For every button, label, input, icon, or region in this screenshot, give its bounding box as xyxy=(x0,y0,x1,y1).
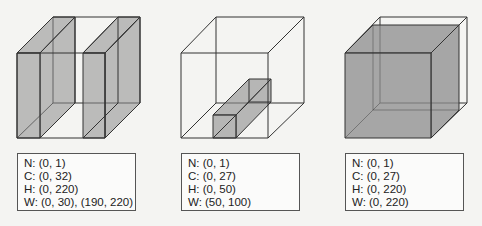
panel-3-n-range: N: (0, 1) xyxy=(352,157,457,170)
panel-2-c-range: C: (0, 27) xyxy=(188,170,293,183)
panel-3-h-range: H: (0, 220) xyxy=(352,183,457,196)
panel-1-n-range: N: (0, 1) xyxy=(24,157,129,170)
panel-1-cube xyxy=(17,17,140,138)
panel-2-cube xyxy=(181,17,304,138)
panel-1-h-range: H: (0, 220) xyxy=(24,183,129,196)
panel-1-label-box: N: (0, 1) C: (0, 32) H: (0, 220) W: (0, … xyxy=(17,153,136,211)
panel-1-w-range: W: (0, 30), (190, 220) xyxy=(24,196,129,209)
panel-3-label-box: N: (0, 1) C: (0, 27) H: (0, 220) W: (0, … xyxy=(345,153,464,211)
panel-1-c-range: C: (0, 32) xyxy=(24,170,129,183)
panel-2-h-range: H: (0, 50) xyxy=(188,183,293,196)
panel-2-w-range: W: (50, 100) xyxy=(188,196,293,209)
panel-3-w-range: W: (0, 220) xyxy=(352,196,457,209)
panel-2-n-range: N: (0, 1) xyxy=(188,157,293,170)
panel-2-label-box: N: (0, 1) C: (0, 27) H: (0, 50) W: (50, … xyxy=(181,153,300,211)
panel-3-c-range: C: (0, 27) xyxy=(352,170,457,183)
cube-diagrams xyxy=(0,0,482,150)
panel-3-cube xyxy=(345,17,467,138)
